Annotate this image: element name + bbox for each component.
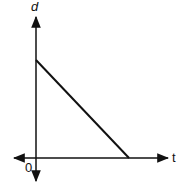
y-axis-label: d bbox=[31, 0, 38, 13]
x-axis-label: t bbox=[172, 151, 176, 164]
data-line bbox=[36, 60, 129, 158]
origin-label: 0 bbox=[25, 161, 32, 174]
